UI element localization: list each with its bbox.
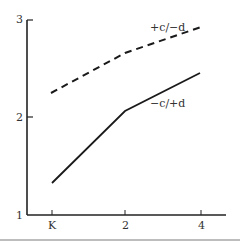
y-axis: 3 2 1 bbox=[16, 13, 33, 222]
y-tick-label-1: 1 bbox=[16, 209, 23, 222]
y-tick-label-3: 3 bbox=[16, 13, 23, 26]
y-tick-label-2: 2 bbox=[16, 111, 23, 124]
x-axis: K 2 4 bbox=[27, 210, 226, 232]
x-tick-label-k: K bbox=[48, 219, 57, 232]
series-dashed: +c/−d bbox=[51, 21, 201, 93]
series-solid: −c/+d bbox=[52, 73, 200, 183]
line-chart: 3 2 1 K 2 4 +c/−d −c/+d bbox=[0, 0, 240, 243]
series-label-minus-c-plus-d: −c/+d bbox=[150, 97, 185, 110]
x-tick-label-2: 2 bbox=[122, 219, 129, 232]
bottom-divider bbox=[0, 239, 240, 241]
series-label-plus-c-minus-d: +c/−d bbox=[150, 21, 185, 34]
x-tick-label-4: 4 bbox=[198, 219, 205, 232]
